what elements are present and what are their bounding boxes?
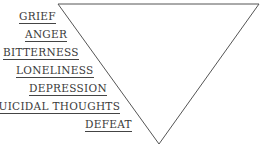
label-anger: ANGER xyxy=(25,28,67,42)
label-grief: GRIEF xyxy=(19,10,56,24)
label-loneliness: LONELINESS xyxy=(16,64,94,78)
label-bitterness: BITTERNESS xyxy=(3,46,79,60)
label-depression: DEPRESSION xyxy=(29,82,107,96)
label-defeat: DEFEAT xyxy=(85,118,132,132)
emotion-triangle-diagram: GRIEF ANGER BITTERNESS LONELINESS DEPRES… xyxy=(0,0,264,149)
label-suicidal-thoughts: SUICIDAL THOUGHTS xyxy=(0,100,120,114)
